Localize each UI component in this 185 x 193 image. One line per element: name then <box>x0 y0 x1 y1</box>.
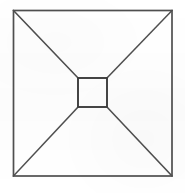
figure-canvas: Truncated pyramid (frustum) plan view Li… <box>0 0 185 193</box>
truncated-pyramid-diagram: Truncated pyramid (frustum) plan view Li… <box>0 0 185 193</box>
figure-background <box>0 0 185 193</box>
